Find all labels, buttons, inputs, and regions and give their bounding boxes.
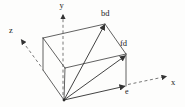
face-diagonal-label: fd — [120, 38, 128, 48]
z-axis-label: z — [9, 25, 13, 35]
edge-label: e — [125, 87, 129, 96]
figure-canvas: y z x bd fd e — [0, 0, 185, 107]
origin-dot — [63, 99, 66, 102]
body-diagonal-label: bd — [101, 8, 110, 18]
diagram-background — [0, 0, 185, 107]
vector-box-diagram: y z x bd fd e — [0, 0, 185, 107]
